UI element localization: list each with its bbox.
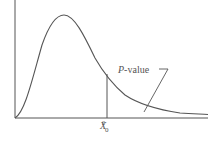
p-value-label: P-value xyxy=(118,64,149,75)
p-value-pointer xyxy=(144,69,168,112)
test-statistic-label: X20 xyxy=(100,120,109,134)
density-curve xyxy=(15,15,208,118)
